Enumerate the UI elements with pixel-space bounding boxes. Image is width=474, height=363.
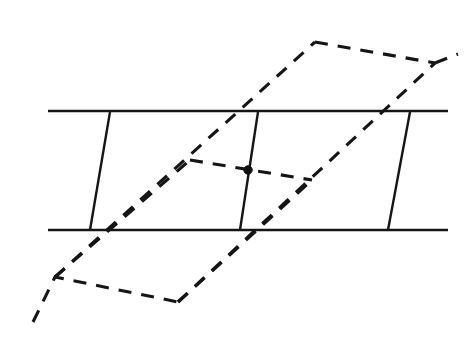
figure-background (0, 0, 474, 363)
intersection-point (244, 166, 252, 174)
figure-canvas (0, 0, 474, 363)
point-marker-group (244, 166, 252, 174)
geometry-figure (0, 0, 474, 363)
